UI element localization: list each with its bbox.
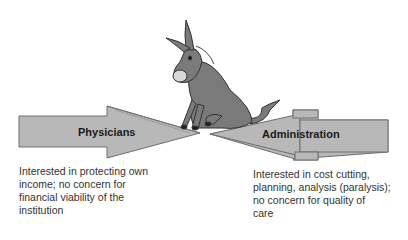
donkey-illustration — [166, 20, 280, 130]
physicians-description: Interested in protecting own income; no … — [19, 165, 199, 217]
physicians-label: Physicians — [78, 126, 135, 138]
administration-description: Interested in cost cutting, planning, an… — [253, 168, 403, 220]
administration-label: Administration — [262, 128, 340, 140]
